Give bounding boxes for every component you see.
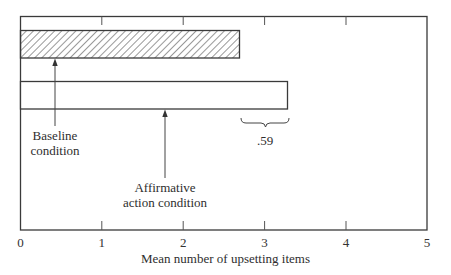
x-tick-label-3: 3 — [261, 236, 268, 250]
baseline-label: Baseline condition — [20, 128, 90, 158]
affirmative-label: Affirmative action condition — [110, 180, 220, 210]
x-tick-label-4: 4 — [343, 236, 350, 250]
bar-baseline — [21, 31, 240, 59]
difference-brace-icon — [241, 118, 289, 127]
affirmative-label-line2: action condition — [110, 195, 220, 210]
affirmative-arrow-icon — [162, 110, 167, 179]
bottom-ticks — [102, 221, 346, 230]
x-tick-label-1: 1 — [99, 236, 106, 250]
bar-affirmative-action — [21, 82, 288, 110]
baseline-label-line1: Baseline — [20, 128, 90, 143]
affirmative-label-line1: Affirmative — [110, 180, 220, 195]
x-axis-title: Mean number of upsetting items — [0, 251, 451, 266]
top-ticks — [102, 17, 346, 26]
x-tick-label-0: 0 — [17, 236, 24, 250]
x-tick-label-2: 2 — [180, 236, 187, 250]
baseline-label-line2: condition — [20, 143, 90, 158]
x-tick-label-5: 5 — [424, 236, 431, 250]
difference-label: .59 — [245, 133, 285, 148]
